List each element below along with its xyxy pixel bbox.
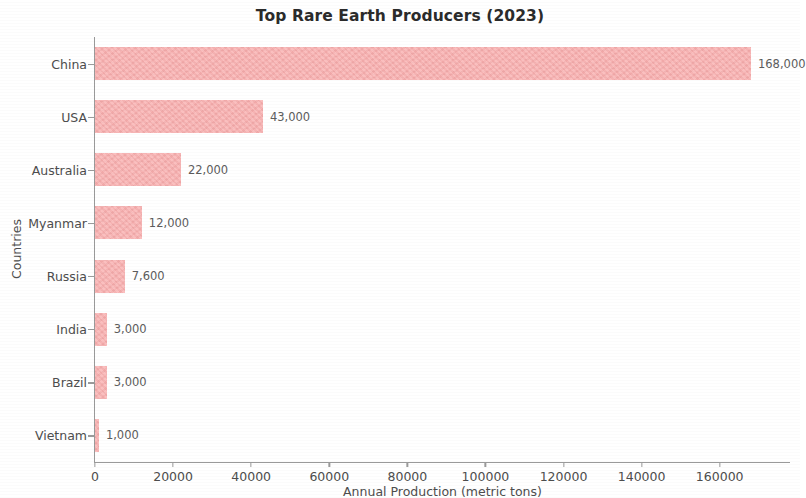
x-tick-mark (329, 462, 330, 467)
y-tick-label-australia: Australia (0, 162, 87, 177)
y-tick-label-usa: USA (0, 109, 87, 124)
y-tick-mark (88, 382, 94, 383)
x-tick-mark (563, 462, 564, 467)
chart-title: Top Rare Earth Producers (2023) (0, 7, 800, 25)
y-tick-mark (88, 223, 94, 224)
bar-row: 43,000 (95, 100, 263, 133)
y-tick-mark (88, 64, 94, 65)
bar-value-label: 1,000 (99, 428, 139, 442)
bar-value-label: 168,000 (751, 57, 806, 71)
bar-value-label: 22,000 (181, 163, 228, 177)
bar-row: 1,000 (95, 419, 99, 452)
x-tick-label: 60000 (309, 469, 349, 484)
bar-value-label: 7,600 (125, 269, 165, 283)
y-axis-title: Countries (9, 189, 24, 309)
x-tick-mark (641, 462, 642, 467)
y-tick-label-india: India (0, 322, 87, 337)
x-tick-label: 160000 (696, 469, 744, 484)
x-axis-title: Annual Production (metric tons) (95, 484, 790, 498)
y-tick-mark (88, 276, 94, 277)
bar-row: 3,000 (95, 366, 107, 399)
bar (95, 153, 181, 186)
y-tick-mark (88, 170, 94, 171)
bar-row: 168,000 (95, 47, 751, 80)
y-tick-label-brazil: Brazil (0, 375, 87, 390)
x-tick-label: 0 (91, 469, 99, 484)
x-tick-label: 140000 (618, 469, 666, 484)
bar-value-label: 12,000 (142, 216, 189, 230)
x-tick-label: 80000 (387, 469, 427, 484)
x-tick-label: 100000 (462, 469, 510, 484)
x-tick-mark (407, 462, 408, 467)
y-tick-label-myanmar: Myanmar (0, 215, 87, 230)
bar-row: 7,600 (95, 260, 125, 293)
x-tick-mark (719, 462, 720, 467)
x-tick-mark (94, 462, 95, 467)
bar (95, 206, 142, 239)
y-tick-mark (88, 435, 94, 436)
bar (95, 260, 125, 293)
bar-row: 3,000 (95, 313, 107, 346)
x-tick-label: 120000 (540, 469, 588, 484)
x-tick-mark (485, 462, 486, 467)
x-tick-mark (251, 462, 252, 467)
y-tick-label-china: China (0, 56, 87, 71)
y-tick-label-russia: Russia (0, 269, 87, 284)
y-tick-label-vietnam: Vietnam (0, 428, 87, 443)
bar-value-label: 43,000 (263, 110, 310, 124)
bar-value-label: 3,000 (107, 375, 147, 389)
x-tick-label: 20000 (153, 469, 193, 484)
bar (95, 47, 751, 80)
bar-row: 22,000 (95, 153, 181, 186)
bar (95, 366, 107, 399)
y-tick-mark (88, 117, 94, 118)
x-tick-label: 40000 (231, 469, 271, 484)
x-tick-mark (172, 462, 173, 467)
bar-row: 12,000 (95, 206, 142, 239)
bar-value-label: 3,000 (107, 322, 147, 336)
bar (95, 313, 107, 346)
bar (95, 100, 263, 133)
y-tick-mark (88, 329, 94, 330)
